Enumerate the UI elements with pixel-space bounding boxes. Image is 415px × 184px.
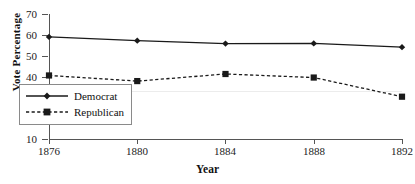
data-point-republican-1892 (399, 94, 405, 100)
data-point-democrat-1884 (222, 40, 228, 46)
x-tick-1876 (49, 139, 50, 144)
x-tick-1884 (225, 139, 226, 144)
data-point-democrat-1888 (311, 40, 317, 46)
x-tick-1892 (402, 139, 403, 144)
y-tick-10: 10 (42, 139, 48, 140)
data-point-democrat-1880 (134, 37, 140, 43)
y-tick-label-50: 50 (26, 50, 37, 62)
y-tick-50: 50 (42, 56, 48, 57)
chart-legend: Democrat Republican (19, 84, 132, 125)
x-tick-label-1888: 1888 (303, 145, 325, 157)
legend-swatch-republican (25, 106, 69, 118)
legend-item-republican: Republican (25, 104, 124, 120)
legend-swatch-democrat (25, 90, 69, 102)
x-tick-label-1876: 1876 (38, 145, 60, 157)
x-tick-label-1884: 1884 (214, 145, 236, 157)
y-tick-label-70: 70 (26, 8, 37, 20)
x-tick-1888 (314, 139, 315, 144)
data-point-republican-1888 (311, 74, 317, 80)
data-point-republican-1880 (134, 78, 140, 84)
x-tick-1880 (137, 139, 138, 144)
series-democrat (46, 34, 405, 51)
legend-item-democrat: Democrat (25, 88, 124, 104)
data-point-republican-1876 (46, 72, 52, 78)
line-chart: Vote Percentage Year 70 60 50 40 30 20 1… (0, 0, 415, 184)
y-tick-label-10: 10 (26, 133, 37, 145)
x-tick-label-1880: 1880 (126, 145, 148, 157)
data-point-democrat-1892 (399, 44, 405, 50)
y-tick-70: 70 (42, 14, 48, 15)
y-tick-label-40: 40 (26, 71, 37, 83)
y-tick-label-60: 60 (26, 29, 37, 41)
x-tick-label-1892: 1892 (391, 145, 413, 157)
x-axis-title: Year (0, 163, 415, 175)
legend-label-republican: Republican (74, 106, 124, 118)
legend-label-democrat: Democrat (74, 90, 117, 102)
data-point-republican-1884 (222, 71, 228, 77)
